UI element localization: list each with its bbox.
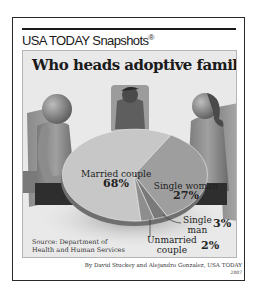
label-unmarried-line1: Unmarried [147, 235, 197, 245]
label-single-man: Single man [183, 215, 212, 235]
source-line-1: Source: Department of [32, 238, 125, 246]
header-rule [22, 28, 236, 30]
source-note: Source: Department of Health and Human S… [32, 238, 125, 254]
label-single-man-pct: 3% [213, 219, 231, 229]
label-single-woman: Single woman 27% [149, 181, 223, 201]
label-unmarried-line2: couple [147, 245, 197, 255]
source-line-2: Health and Human Services [32, 246, 125, 254]
chart-panel: Who heads adoptive families Married coup… [22, 50, 237, 258]
label-unmarried-couple: Unmarried couple [147, 235, 197, 255]
chart-title: Who heads adoptive families [32, 56, 237, 74]
label-single-man-line1: Single [183, 215, 212, 225]
brand-title: USA TODAY Snapshots® [22, 33, 154, 48]
brand-text: USA TODAY Snapshots [22, 33, 148, 48]
center-person-icon [111, 85, 149, 133]
byline-year: 2007 [231, 270, 242, 275]
label-single-woman-pct: 27% [149, 191, 223, 201]
label-married-couple: Married couple 68% [81, 169, 151, 189]
label-single-man-line2: man [183, 225, 212, 235]
label-married-pct: 68% [81, 179, 151, 189]
registered-mark: ® [148, 33, 153, 42]
label-unmarried-pct: 2% [201, 241, 219, 251]
byline-credit: By David Stuckey and Alejandro Gonzalez,… [85, 262, 242, 268]
